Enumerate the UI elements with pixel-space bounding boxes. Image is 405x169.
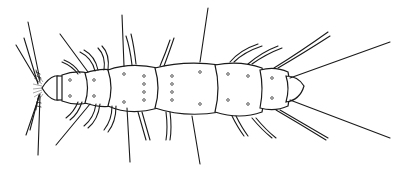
- body: [42, 63, 304, 116]
- illustration: [0, 0, 405, 169]
- arthropod-drawing: [0, 0, 405, 169]
